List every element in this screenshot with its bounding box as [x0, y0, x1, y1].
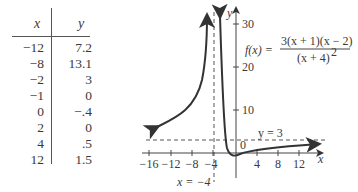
- formula-lhs: f(x) =: [245, 43, 273, 57]
- x-tick-label: −4: [205, 157, 218, 171]
- x-tick-label: −12: [162, 157, 181, 171]
- x-tick-label: 12: [293, 157, 305, 171]
- y-tick-label: 20: [242, 60, 254, 74]
- x-tick-label: −16: [140, 157, 159, 171]
- horizontal-asymptote-label: y = 3: [258, 126, 283, 140]
- formula-denominator: (x + 4): [297, 51, 330, 65]
- curve-left-branch: [157, 16, 207, 127]
- x-axis-label: x: [317, 152, 324, 166]
- x-tick-label: −8: [186, 157, 199, 171]
- formula-exponent: 2: [331, 45, 337, 59]
- y-tick-label: 10: [242, 103, 254, 117]
- y-tick-label: 30: [242, 17, 254, 31]
- origin-label: 0: [240, 138, 246, 152]
- x-tick-label: 4: [254, 157, 260, 171]
- y-axis-label: y: [226, 6, 233, 20]
- vertical-asymptote-label: x = −4: [176, 175, 211, 189]
- formula-numerator: 3(x + 1)(x − 2): [281, 34, 353, 48]
- function-graph: −16 −12 −8 −4 4 8 12 10 20 30 0 x y y = …: [0, 0, 358, 192]
- function-formula: f(x) = 3(x + 1)(x − 2) (x + 4) 2: [245, 34, 353, 65]
- x-tick-label: 8: [275, 157, 281, 171]
